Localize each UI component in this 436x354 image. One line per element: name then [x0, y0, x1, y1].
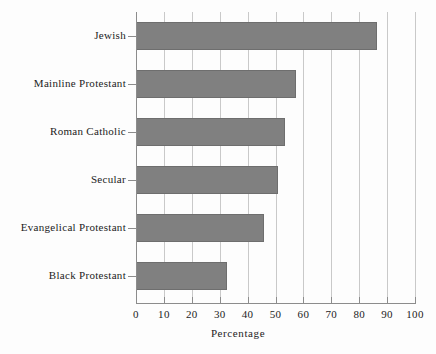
- gridline-70: [331, 12, 332, 303]
- bar-jewish[interactable]: [136, 22, 377, 50]
- gridline-90: [387, 12, 388, 303]
- category-label-secular: Secular: [91, 173, 126, 185]
- x-tick-label-40: 40: [242, 308, 254, 320]
- x-axis-title: Percentage: [211, 327, 265, 339]
- gridline-50: [276, 12, 277, 303]
- y-axis-line: [136, 12, 137, 303]
- gridline-80: [359, 12, 360, 303]
- x-tick-40: [248, 297, 249, 304]
- y-tick-mainline-protestant: [128, 84, 136, 85]
- x-tick-0: [136, 297, 137, 304]
- x-tick-label-50: 50: [270, 308, 282, 320]
- gridline-100: [415, 12, 416, 303]
- x-tick-label-10: 10: [158, 308, 170, 320]
- x-tick-70: [331, 297, 332, 304]
- plot-area: [136, 12, 415, 303]
- bar-mainline-protestant[interactable]: [136, 70, 296, 98]
- x-tick-30: [220, 297, 221, 304]
- y-tick-jewish: [128, 36, 136, 37]
- y-tick-black-protestant: [128, 276, 136, 277]
- category-label-roman-catholic: Roman Catholic: [50, 125, 126, 137]
- x-tick-10: [164, 297, 165, 304]
- x-tick-100: [415, 297, 416, 304]
- x-tick-label-0: 0: [133, 308, 139, 320]
- x-tick-90: [387, 297, 388, 304]
- gridline-30: [220, 12, 221, 303]
- x-tick-60: [303, 297, 304, 304]
- category-label-mainline-protestant: Mainline Protestant: [34, 77, 126, 89]
- x-tick-20: [192, 297, 193, 304]
- category-label-evangelical-protestant: Evangelical Protestant: [21, 221, 126, 233]
- x-tick-80: [359, 297, 360, 304]
- y-tick-secular: [128, 180, 136, 181]
- bar-secular[interactable]: [136, 166, 278, 194]
- x-tick-label-70: 70: [325, 308, 337, 320]
- x-tick-label-90: 90: [381, 308, 393, 320]
- x-tick-50: [276, 297, 277, 304]
- gridline-10: [164, 12, 165, 303]
- y-tick-evangelical-protestant: [128, 228, 136, 229]
- bar-evangelical-protestant[interactable]: [136, 214, 264, 242]
- bar-chart: Jewish Mainline Protestant Roman Catholi…: [0, 0, 436, 354]
- y-tick-roman-catholic: [128, 132, 136, 133]
- gridline-60: [303, 12, 304, 303]
- category-label-black-protestant: Black Protestant: [49, 269, 126, 281]
- bar-black-protestant[interactable]: [136, 262, 227, 290]
- x-tick-label-30: 30: [214, 308, 226, 320]
- category-label-jewish: Jewish: [94, 29, 126, 41]
- x-tick-label-60: 60: [298, 308, 310, 320]
- gridline-40: [248, 12, 249, 303]
- x-axis-title-container: Percentage: [0, 327, 436, 339]
- bar-roman-catholic[interactable]: [136, 118, 285, 146]
- x-tick-label-80: 80: [353, 308, 365, 320]
- x-tick-label-20: 20: [186, 308, 198, 320]
- gridline-20: [192, 12, 193, 303]
- x-tick-label-100: 100: [406, 308, 423, 320]
